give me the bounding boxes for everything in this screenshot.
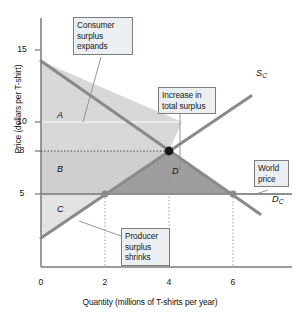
callout-line: Consumer <box>77 20 129 31</box>
x-tick-label-4: 4 <box>160 277 178 287</box>
callout-line: Producer <box>125 231 166 242</box>
callout-line: shrinks <box>125 252 166 263</box>
callout-line: Increase in <box>162 90 212 101</box>
region-a-lower-band <box>41 122 182 151</box>
callout-line: price <box>258 174 285 185</box>
callout-producer-surplus-shrinks: Producer surplus shrinks <box>121 228 170 266</box>
region-label-d: D <box>172 166 179 176</box>
y-tick-label-15: 15 <box>12 44 32 54</box>
callout-line: total surplus <box>162 101 212 112</box>
y-tick-label-8: 8 <box>12 145 32 155</box>
x-axis-title: Quantity (millions of T-shirts per year) <box>0 297 300 307</box>
x-tick-label-2: 2 <box>96 277 114 287</box>
callout-line: expands <box>77 41 129 52</box>
callout-consumer-surplus-expands: Consumer surplus expands <box>73 17 133 55</box>
demand-curve-label-main: D <box>272 194 279 204</box>
demand-curve-label: DC <box>272 194 284 205</box>
demand-curve-label-sub: C <box>279 198 284 205</box>
callout-line: World <box>258 163 285 174</box>
y-tick-label-10: 10 <box>12 116 32 126</box>
x-tick-label-0: 0 <box>32 277 50 287</box>
supply-curve-label-sub: C <box>262 72 267 79</box>
callout-world-price: World price <box>254 160 289 187</box>
region-label-a: A <box>57 110 63 120</box>
y-tick-label-5: 5 <box>12 188 32 198</box>
region-label-c: C <box>57 204 64 214</box>
point-domestic-equilibrium <box>165 147 174 156</box>
point-world-supply <box>102 191 109 198</box>
leader-producer-surplus <box>79 221 121 236</box>
figure-container: Price (dollars per T-shirt) Quantity (mi… <box>0 0 300 317</box>
chart-canvas <box>0 0 300 317</box>
callout-line: surplus <box>125 242 166 253</box>
point-world-demand <box>230 191 237 198</box>
region-label-b: B <box>57 164 63 174</box>
supply-curve-label: SC <box>256 68 267 79</box>
x-tick-label-6: 6 <box>224 277 242 287</box>
callout-line: surplus <box>77 31 129 42</box>
callout-increase-in-total-surplus: Increase in total surplus <box>158 87 216 114</box>
